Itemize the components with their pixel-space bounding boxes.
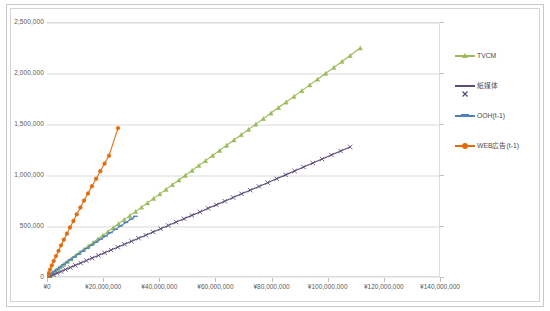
marker-x [348, 145, 352, 149]
marker-x [116, 245, 120, 249]
x-axis-tick-mark [272, 278, 273, 282]
legend-item-label: TVCM [477, 50, 496, 60]
y-axis-tick-label: 0 [0, 273, 44, 281]
marker-x [174, 220, 178, 224]
marker-circle [62, 238, 66, 242]
marker-circle [98, 169, 102, 173]
marker-x [320, 157, 324, 161]
legend-item-紙媒体[interactable]: 紙媒体 [455, 80, 537, 90]
legend-item-TVCM[interactable]: TVCM [455, 50, 537, 60]
x-axis-tick-label: ¥140,000,000 [405, 283, 475, 290]
marker-x [122, 242, 126, 246]
marker-x [151, 230, 155, 234]
legend-item-label: WEB広告(t-1) [477, 140, 519, 150]
marker-x [265, 180, 269, 184]
marker-x [239, 192, 243, 196]
marker-circle [48, 268, 52, 272]
marker-x [292, 169, 296, 173]
legend-item-WEB広告(t-1)[interactable]: WEB広告(t-1) [455, 140, 537, 150]
marker-x [274, 177, 278, 181]
plot-svg [47, 23, 440, 278]
marker-x [102, 251, 106, 255]
legend-item-label: OOH(t-1) [477, 110, 505, 120]
y-axis-tick-label: 1,500,000 [0, 120, 44, 128]
series-WEB広告(t-1)[interactable] [47, 126, 120, 278]
marker-x [182, 217, 186, 221]
marker-x [109, 248, 113, 252]
marker-circle [68, 226, 72, 230]
marker-x [206, 206, 210, 210]
x-axis-tick-mark [159, 278, 160, 282]
marker-circle [54, 254, 58, 258]
legend-key-dash-icon [455, 111, 475, 120]
legend-key-circle-icon [455, 141, 475, 150]
marker-x [214, 203, 218, 207]
marker-x [96, 253, 100, 257]
legend-marker-circle-icon [462, 143, 468, 149]
y-axis-tick-mark [440, 175, 444, 176]
legend-key-triangle-icon [455, 51, 475, 60]
marker-x [90, 256, 94, 260]
legend-item-OOH(t-1)[interactable]: OOH(t-1) [455, 110, 537, 120]
marker-circle [75, 212, 79, 216]
marker-x [190, 213, 194, 217]
y-axis-tick-label: 500,000 [0, 222, 44, 230]
marker-x [198, 210, 202, 214]
y-axis-tick-label: 1,000,000 [0, 171, 44, 179]
y-axis-tick-label: 2,500,000 [0, 18, 44, 26]
marker-circle [94, 177, 98, 181]
marker-circle [59, 243, 63, 247]
y-axis-tick-label: 2,000,000 [0, 69, 44, 77]
marker-circle [50, 264, 54, 268]
marker-x [73, 263, 77, 267]
marker-circle [52, 259, 56, 263]
chart-legend[interactable]: TVCM紙媒体OOH(t-1)WEB広告(t-1) [455, 22, 537, 277]
marker-circle [103, 162, 107, 166]
marker-circle [71, 219, 75, 223]
marker-x [129, 239, 133, 243]
marker-circle [65, 232, 69, 236]
y-axis-tick-mark [440, 226, 444, 227]
marker-x [329, 153, 333, 157]
marker-circle [86, 192, 90, 196]
marker-x [136, 236, 140, 240]
x-axis-tick-mark [328, 278, 329, 282]
marker-x [301, 165, 305, 169]
legend-marker-triangle-icon [462, 53, 468, 58]
marker-x [144, 233, 148, 237]
y-axis-tick-mark [440, 22, 444, 23]
marker-x [338, 149, 342, 153]
legend-marker-dash-icon [461, 114, 469, 116]
marker-x [63, 267, 67, 271]
marker-x [84, 258, 88, 262]
x-axis-tick-mark [103, 278, 104, 282]
marker-triangle [358, 46, 362, 50]
y-axis-tick-mark [440, 73, 444, 74]
marker-x [68, 265, 72, 269]
marker-circle [90, 184, 94, 188]
x-axis-tick-mark [47, 278, 48, 282]
legend-marker-x-icon [462, 83, 468, 89]
plot-area[interactable] [47, 22, 440, 277]
x-axis-tick-mark [384, 278, 385, 282]
marker-x [231, 195, 235, 199]
marker-x [257, 184, 261, 188]
marker-x [78, 261, 82, 265]
marker-circle [116, 126, 120, 130]
legend-key-x-icon [455, 81, 475, 90]
marker-circle [107, 154, 111, 158]
marker-circle [47, 271, 51, 275]
marker-circle [57, 249, 61, 253]
y-axis-tick-mark [440, 124, 444, 125]
x-axis-tick-mark [440, 278, 441, 282]
marker-circle [82, 199, 86, 203]
marker-circle [79, 206, 83, 210]
marker-x [311, 161, 315, 165]
x-axis-tick-mark [215, 278, 216, 282]
marker-x [222, 199, 226, 203]
legend-item-label: 紙媒体 [477, 80, 498, 90]
screenshot-root: 0500,0001,000,0001,500,0002,000,0002,500… [0, 0, 550, 311]
marker-x [248, 188, 252, 192]
